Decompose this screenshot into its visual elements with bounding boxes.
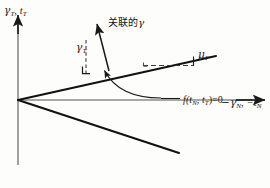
lower-yield-surface-line (18, 100, 179, 153)
mu-f-label: μF (198, 49, 209, 61)
associated-gamma-chinese-text: 关联的 (108, 17, 138, 28)
figure-container: γT, tT −γN, −tN 关联的γ γT μF f(tN, tT)=0 (0, 0, 270, 188)
diagram-canvas (0, 0, 270, 188)
x-axis-gamma-subscript: N (236, 102, 241, 110)
x-axis-label: −γN, −tN (221, 97, 261, 109)
y-axis-t-subscript: T (23, 10, 27, 18)
mu-f-symbol: μ (198, 48, 205, 60)
flow-vector-arrow (97, 24, 109, 71)
gamma-t-label: γT (76, 42, 86, 54)
yield-function-arg2-subscript: T (205, 99, 209, 106)
yield-function-suffix: )=0 (209, 94, 223, 105)
yield-function-arg1-subscript: N (192, 99, 197, 106)
x-axis-gamma-symbol: −γ (221, 96, 236, 108)
x-axis-t-subscript: N (257, 102, 262, 110)
y-axis-label: γT, tT (4, 5, 27, 17)
associated-gamma-symbol: γ (138, 17, 144, 28)
yield-function-label: f(tN, tT)=0 (183, 95, 223, 105)
mu-f-subscript: F (205, 54, 209, 62)
associated-gamma-annotation: 关联的γ (108, 18, 144, 28)
y-axis-gamma-subscript: T (10, 10, 14, 18)
x-axis-t-symbol: −t (247, 97, 257, 108)
gamma-t-subscript: T (82, 47, 86, 55)
